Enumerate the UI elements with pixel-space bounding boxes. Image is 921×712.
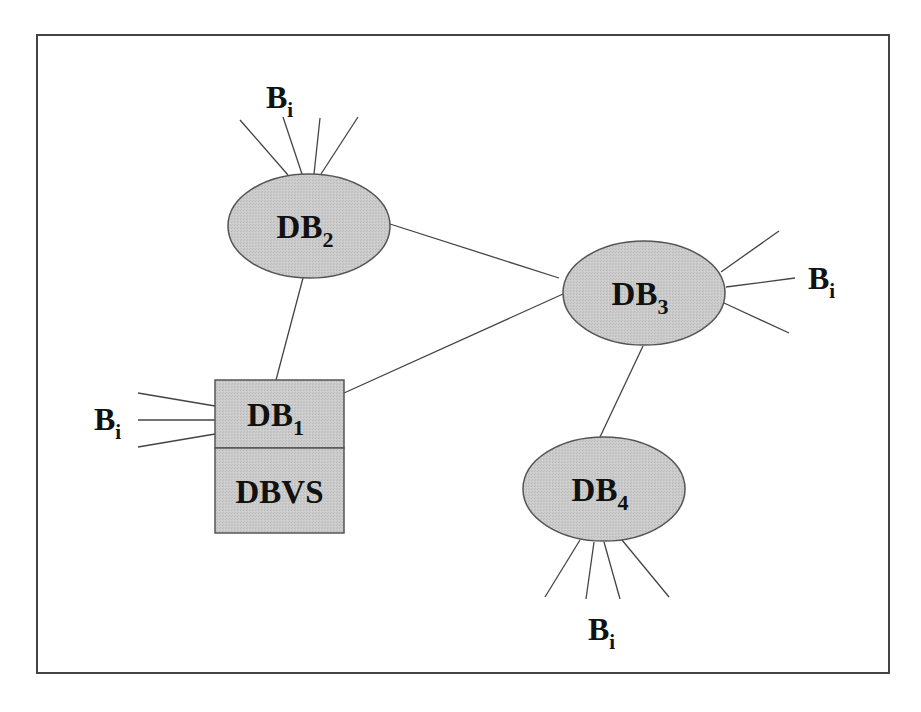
branch-group-db4 <box>545 540 669 599</box>
branch-line <box>586 542 594 599</box>
node-label-dbvs: DBVS <box>235 474 323 510</box>
branch-label-db1: Bi <box>94 401 121 444</box>
diagram-canvas: BiBiBiBiDB2DB3DB4DB1DBVS <box>0 0 921 712</box>
labels-layer: BiBiBiBiDB2DB3DB4DB1DBVS <box>94 79 835 654</box>
diagram-frame <box>37 35 889 673</box>
branch-group-db3 <box>721 231 795 333</box>
branch-group-db2 <box>240 117 358 175</box>
edge-db2-db1 <box>276 278 303 380</box>
branch-label-db3: Bi <box>808 260 835 303</box>
branch-line <box>283 117 302 174</box>
branch-line <box>726 278 795 287</box>
branch-label-db4: Bi <box>588 611 615 654</box>
branch-line <box>724 303 789 333</box>
branch-line <box>604 542 620 599</box>
branch-line <box>138 434 215 447</box>
branch-line <box>240 120 288 175</box>
branch-line <box>721 231 779 272</box>
branch-line <box>138 393 215 406</box>
branch-label-db2: Bi <box>266 79 293 122</box>
branch-line <box>321 117 358 174</box>
edge-db2-db3 <box>390 224 559 278</box>
branch-line <box>622 540 669 597</box>
branch-group-db1 <box>138 393 215 447</box>
edge-db1-db3 <box>344 294 563 393</box>
edge-db3-db4 <box>600 346 643 437</box>
branch-line <box>545 540 580 597</box>
branch-line <box>314 118 320 174</box>
